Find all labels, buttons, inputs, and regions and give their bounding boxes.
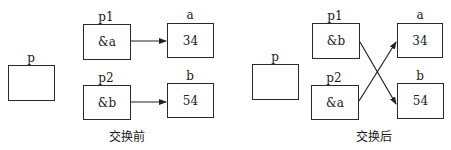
label-b-before: b [175, 70, 205, 82]
box-p2-before: &b [83, 85, 131, 120]
label-p-after: p [260, 51, 290, 63]
label-a-before: a [175, 9, 205, 21]
label-p-before: p [16, 52, 46, 64]
box-a-after: 34 [397, 23, 443, 58]
box-p-before [8, 65, 55, 101]
label-b-after: b [405, 70, 435, 82]
label-p1-before: p1 [91, 11, 121, 23]
arrows-layer [0, 0, 451, 150]
box-b-before: 54 [167, 83, 214, 118]
box-p1-after: &b [312, 23, 360, 59]
box-p-after [252, 64, 299, 100]
box-p2-after: &a [311, 85, 359, 120]
box-a-before: 34 [167, 23, 214, 58]
box-p1-before: &a [83, 24, 131, 60]
label-p1-after: p1 [320, 10, 350, 22]
label-a-after: a [405, 9, 435, 21]
label-p2-after: p2 [319, 72, 349, 84]
label-p2-before: p2 [91, 72, 121, 84]
caption-before: 交换前 [109, 130, 145, 144]
caption-after: 交换后 [356, 130, 392, 144]
box-b-after: 54 [397, 83, 444, 119]
